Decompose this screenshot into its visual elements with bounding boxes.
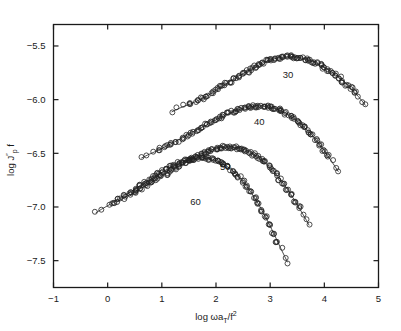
axes-group: −1012345−5.5−6.0−6.5−7.0−7.5 [27, 25, 381, 304]
svg-text:log ωaT/f2: log ωaT/f2 [195, 310, 237, 324]
curve-labels-group: 30405060 [190, 69, 293, 207]
x-axis-title: log ωaT/f2 [195, 310, 237, 324]
y-axis-title-tail-f: f [5, 144, 16, 147]
series-60 [92, 154, 290, 266]
x-axis-title-sup: 2 [233, 310, 237, 317]
data-point [92, 209, 97, 214]
curve-label-30: 30 [283, 69, 294, 80]
x-tick-label: 0 [105, 293, 110, 304]
data-point [325, 154, 330, 159]
curve-label-40: 40 [254, 116, 265, 127]
y-axis-title: log J″p f [5, 144, 19, 176]
scatter-plot: −1012345−5.5−6.0−6.5−7.0−7.5 30405060 lo… [0, 0, 401, 331]
y-tick-label: −6.0 [27, 94, 46, 105]
x-tick-label: 3 [268, 293, 273, 304]
svg-text:log J″p f: log J″p f [5, 144, 19, 176]
x-tick-label: −1 [48, 293, 59, 304]
y-tick-label: −6.5 [27, 148, 46, 159]
data-point [307, 222, 312, 227]
plot-frame [54, 25, 379, 288]
series-line [141, 106, 338, 172]
y-tick-label: −7.0 [27, 201, 46, 212]
figure-container: −1012345−5.5−6.0−6.5−7.0−7.5 30405060 lo… [0, 0, 401, 331]
x-tick-label: 1 [159, 293, 164, 304]
data-point [355, 94, 360, 99]
data-point [174, 105, 179, 110]
curve-label-50: 50 [220, 161, 231, 172]
data-point [170, 110, 175, 115]
x-tick-label: 5 [376, 293, 381, 304]
data-series-group [92, 53, 367, 266]
x-tick-label: 4 [322, 293, 327, 304]
curve-label-60: 60 [190, 196, 201, 207]
x-axis-title-main: log ωa [195, 311, 224, 322]
y-axis-title-main: log J [5, 156, 16, 176]
y-tick-label: −7.5 [27, 255, 46, 266]
data-point [331, 158, 336, 163]
y-tick-label: −5.5 [27, 40, 46, 51]
x-tick-label: 2 [213, 293, 218, 304]
